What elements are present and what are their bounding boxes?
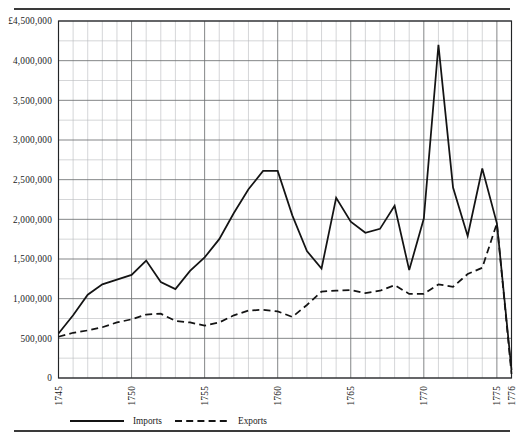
x-tick-label-1770: 1770	[419, 386, 429, 406]
y-tick-label-4000000: 4,000,000	[13, 56, 52, 66]
x-axis-tick-labels: 17451750175517601765177017751776	[54, 386, 517, 406]
x-tick-label-1750: 1750	[127, 386, 137, 406]
y-tick-label-1500000: 1,500,000	[13, 254, 52, 264]
y-tick-label-500000: 500,000	[20, 334, 52, 344]
y-tick-label-1000000: 1,000,000	[13, 294, 52, 304]
chart-legend: Imports Exports	[70, 416, 267, 426]
y-tick-label-4500000: £4,500,000	[8, 16, 52, 26]
legend-label-imports: Imports	[133, 416, 162, 426]
legend-label-exports: Exports	[238, 416, 267, 426]
y-tick-label-2500000: 2,500,000	[13, 175, 52, 185]
y-axis-tick-labels: £4,500,0004,000,0003,500,0003,000,0002,5…	[8, 16, 52, 383]
x-tick-label-1745: 1745	[54, 386, 64, 406]
x-tick-label-1765: 1765	[346, 386, 356, 406]
y-tick-label-0: 0	[47, 373, 52, 383]
x-tick-label-1760: 1760	[273, 386, 283, 406]
x-tick-label-1755: 1755	[200, 386, 210, 406]
figure-container: £4,500,0004,000,0003,500,0003,000,0002,5…	[0, 0, 524, 441]
y-tick-label-2000000: 2,000,000	[13, 215, 52, 225]
x-tick-label-1775: 1775	[492, 386, 502, 406]
line-chart: £4,500,0004,000,0003,500,0003,000,0002,5…	[0, 0, 524, 441]
y-tick-label-3000000: 3,000,000	[13, 135, 52, 145]
y-tick-label-3500000: 3,500,000	[13, 96, 52, 106]
x-tick-label-1776: 1776	[507, 386, 517, 406]
